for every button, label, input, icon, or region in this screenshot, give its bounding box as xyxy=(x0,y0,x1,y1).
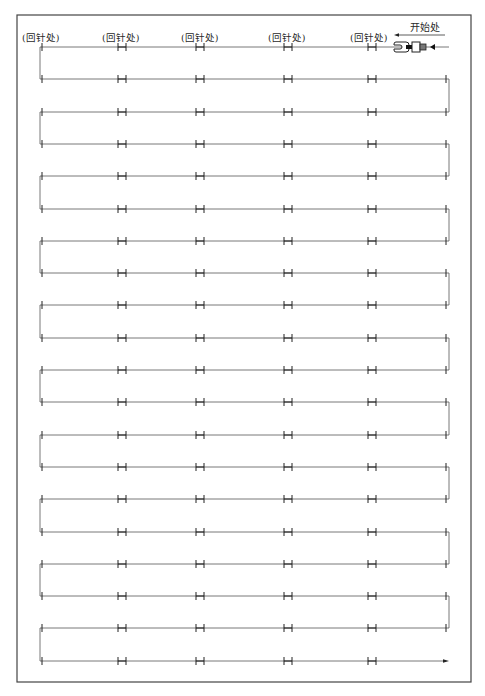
backstitch-label-3: (回针处) xyxy=(181,30,218,44)
start-label: 开始处 xyxy=(410,19,440,34)
stitch-path-diagram: (回针处) (回针处) (回针处) (回针处) (回针处) 开始处 xyxy=(0,0,485,696)
backstitch-label-1: (回针处) xyxy=(22,30,59,44)
page-frame xyxy=(17,15,471,682)
end-arrow-icon xyxy=(443,659,449,663)
backstitch-label-2: (回针处) xyxy=(102,30,139,44)
diagram-canvas xyxy=(0,0,485,696)
backstitch-label-5: (回针处) xyxy=(350,30,387,44)
start-direction-arrow-icon xyxy=(394,33,399,37)
backstitch-label-4: (回针处) xyxy=(268,30,305,44)
